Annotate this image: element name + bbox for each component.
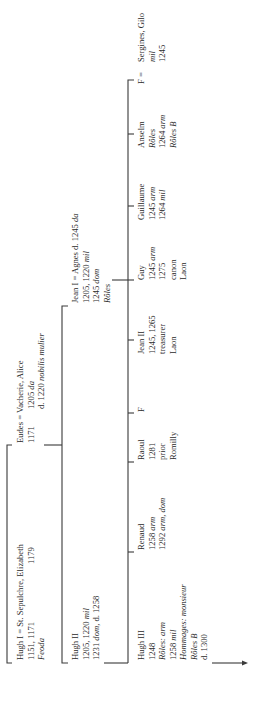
- renaud-line2: 1258 arm: [147, 517, 157, 550]
- person-hugh-ii: Hugh II 1205, 1220 mil 1231 dom, d. 1258: [70, 596, 101, 660]
- f1-name: F: [136, 407, 146, 412]
- person-hugh-iii: Hugh III 1248 Rôles: arm 1258 mil Hommag…: [136, 584, 209, 661]
- person-f-daughter-1: F: [136, 407, 146, 412]
- eudes-spouse-date: 1205 da: [26, 381, 36, 409]
- jean-i-line3: 1245 dom: [91, 269, 101, 303]
- hugh-iii-line5: Hommages: monsieur: [178, 584, 188, 661]
- raoul-name: Raoul: [136, 439, 146, 460]
- guy-line4: canon: [168, 259, 178, 280]
- gen3-bracket-line: [128, 80, 134, 663]
- arrow-right-icon: [242, 661, 248, 666]
- hugh-iii-line7: d. 1300: [199, 634, 209, 660]
- eudes-name: Eudes = Vacherie, Alice: [15, 360, 25, 443]
- person-eudes: Eudes = Vacherie, Alice 1171 1205 da d. …: [15, 332, 46, 443]
- hugh-iii-line3: Rôles: arm: [157, 622, 167, 661]
- guy-name: Guy: [136, 264, 146, 280]
- person-sergines-gilo: Sergines, Gilo mil 1245: [136, 13, 167, 62]
- guy-line2: 1245 arm: [147, 247, 157, 280]
- renaud-line3: 1292 arm, dom: [157, 498, 167, 550]
- anselm-line3: 1264 arm: [157, 115, 167, 148]
- guillaume-line2: 1245 arm: [147, 187, 157, 220]
- gen1-bracket-line: [7, 445, 12, 663]
- person-raoul: Raoul 1281 prior Romilly: [136, 431, 178, 460]
- jean-ii-line4: Laon: [168, 336, 178, 354]
- person-guillaume: Guillaume 1245 arm 1264 mil: [136, 184, 167, 220]
- hugh-ii-line3: 1231 dom, d. 1258: [91, 596, 101, 660]
- jean-i-line2: 1205, 1220 mil: [81, 251, 91, 303]
- person-guy: Guy 1245 arm 1275 canon Laon: [136, 247, 188, 280]
- anselm-name: Anselm: [136, 121, 146, 148]
- f2-name: F =: [136, 72, 146, 84]
- raoul-line4: Romilly: [168, 431, 178, 460]
- sergines-name: Sergines, Gilo: [136, 13, 146, 62]
- jean-i-line4: Rôles: [102, 283, 112, 304]
- guy-line3: 1275: [157, 263, 167, 280]
- eudes-spouse-note: d. 1220 nobilis mulier: [36, 332, 46, 409]
- gen2-bracket-line: [62, 306, 68, 663]
- hugh-ii-name: Hugh II: [70, 633, 80, 660]
- jean-ii-line2: 1245, 1265: [147, 315, 157, 354]
- hugh-ii-line2: 1205, 1220 mil: [81, 608, 91, 660]
- hugh-i-dates: 1151, 1171: [26, 622, 36, 660]
- jean-ii-name: Jean II: [136, 331, 146, 354]
- person-f-daughter-2: F =: [136, 72, 146, 84]
- jean-i-name: Jean I = Agnes d. 1245 da: [70, 213, 80, 303]
- raoul-line2: 1281: [147, 443, 157, 460]
- hugh-i-source: Feoda: [36, 638, 46, 661]
- anselm-line4: Rôles B: [168, 121, 178, 149]
- guillaume-name: Guillaume: [136, 184, 146, 220]
- hugh-i-spouse-date: 1179: [26, 547, 36, 564]
- anselm-line2: Rôles: [147, 128, 157, 149]
- person-renaud: Renaud 1258 arm 1292 arm, dom: [136, 498, 167, 550]
- hugh-i-name: Hugh I = St. Sepulchre, Elizabeth: [15, 543, 25, 660]
- hugh-iii-line2: 1248: [147, 643, 157, 660]
- jean-ii-line3: treasurer: [157, 324, 167, 354]
- hugh-iii-line4: 1258 mil: [168, 629, 178, 660]
- sergines-line2: mil: [147, 50, 157, 62]
- raoul-line3: prior: [157, 443, 167, 460]
- guillaume-line3: 1264 mil: [157, 189, 167, 220]
- hugh-iii-line6: Rôles B: [189, 633, 199, 661]
- person-jean-ii: Jean II 1245, 1265 treasurer Laon: [136, 315, 178, 354]
- person-hugh-i: Hugh I = St. Sepulchre, Elizabeth 1151, …: [15, 543, 46, 661]
- guy-line5: Laon: [178, 262, 188, 280]
- person-anselm: Anselm Rôles 1264 arm Rôles B: [136, 115, 178, 149]
- genealogy-diagram: Hugh I = St. Sepulchre, Elizabeth 1151, …: [0, 0, 258, 702]
- hugh-iii-name: Hugh III: [136, 630, 146, 660]
- renaud-name: Renaud: [136, 523, 146, 550]
- person-jean-i: Jean I = Agnes d. 1245 da 1205, 1220 mil…: [70, 213, 112, 304]
- sergines-line3: 1245: [157, 45, 167, 62]
- eudes-date: 1171: [26, 426, 36, 443]
